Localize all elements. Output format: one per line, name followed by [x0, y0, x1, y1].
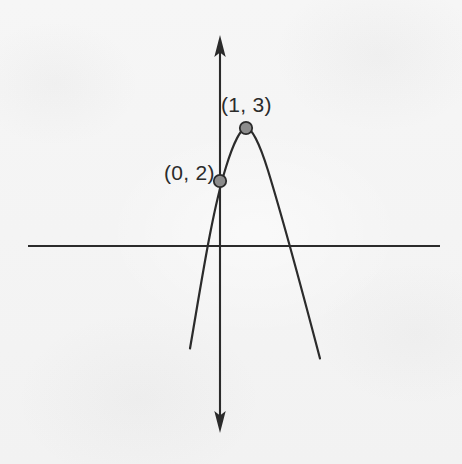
vertex-point-marker — [240, 122, 252, 134]
y-intercept-point-label: (0, 2) — [164, 161, 215, 185]
graph-figure: (1, 3) (0, 2) — [0, 0, 462, 464]
y-intercept-point-marker — [214, 175, 226, 187]
vertex-point-label: (1, 3) — [221, 93, 272, 117]
coordinate-plane-plot — [0, 0, 462, 464]
